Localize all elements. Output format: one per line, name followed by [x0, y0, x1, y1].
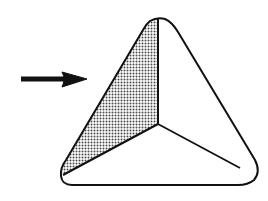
arrow-right-icon — [21, 72, 87, 87]
pyramid-diagram — [0, 0, 268, 201]
shaded-face — [62, 18, 158, 175]
edge-right — [158, 124, 240, 168]
arrow-head — [62, 72, 87, 87]
